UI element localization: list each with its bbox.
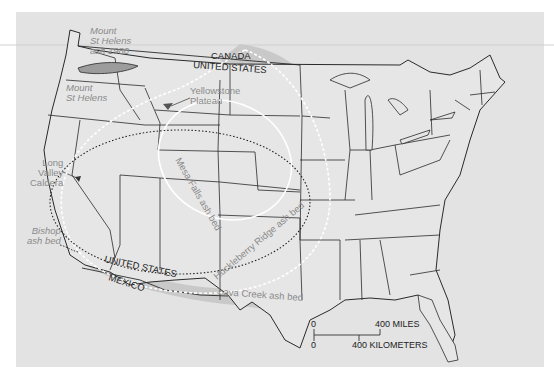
label-mount-st-helens: Mount St Helens — [66, 83, 107, 103]
scale-km-label: 400 KILOMETERS — [352, 340, 428, 350]
label-yellowstone-plateau: Yellowstone Plateau — [190, 86, 240, 106]
scale-miles-label: 400 MILES — [375, 319, 420, 329]
label-long-valley-caldera: Long Valley Caldera — [30, 158, 63, 188]
scale-km-zero: 0 — [311, 340, 316, 350]
label-canada: CANADA — [211, 51, 251, 61]
scale-miles-zero: 0 — [311, 319, 316, 329]
label-bishop-ash-bed: Bishop ash bed — [27, 226, 61, 246]
label-st-helens-1980: Mount St Helens ash 1980 — [90, 26, 131, 56]
ash-bed-map: Mesa Falls ash bed Huckleberry Ridge ash… — [0, 0, 554, 378]
